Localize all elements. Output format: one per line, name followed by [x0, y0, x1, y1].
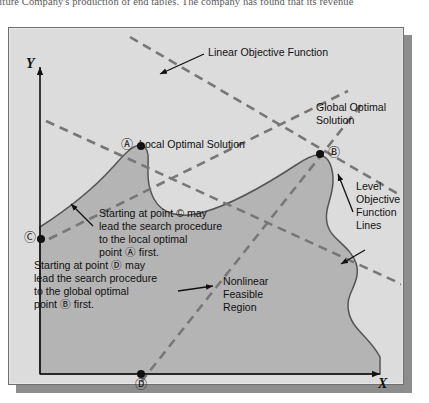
note-d-line2: lead the search procedure [34, 272, 157, 285]
y-axis-label: Y [26, 56, 35, 72]
label-level-objective-line4: Lines [356, 219, 381, 232]
label-linear-objective-function: Linear Objective Function [208, 46, 328, 59]
label-level-objective-line3: Function [356, 206, 397, 219]
note-d-line3: to the global optimal [34, 285, 129, 298]
point-label-d: Ⓓ [135, 379, 147, 392]
label-feasible-region-line2: Feasible [223, 288, 263, 301]
figure-graphic [8, 27, 412, 393]
x-axis-label: X [378, 376, 387, 392]
page-running-text-line: niture Company's production of end table… [0, 0, 429, 7]
label-level-objective-line1: Level [356, 180, 381, 193]
note-d-line1: Starting at point Ⓓ may [34, 259, 145, 272]
point-dot-d [137, 370, 145, 378]
label-level-objective-line2: Objective [356, 193, 400, 206]
leader-linear-objective [160, 54, 204, 74]
note-c-line4: point Ⓐ first. [99, 246, 159, 259]
leader-level-lines-upper [338, 174, 353, 212]
label-local-optimal-solution: Local Optimal Solution [139, 138, 245, 151]
note-c-line1: Starting at point © may [99, 207, 207, 220]
label-global-optimal-solution-line1: Global Optimal [316, 101, 386, 114]
point-dot-b [316, 150, 324, 158]
note-c-line3: to the local optimal [99, 233, 187, 246]
point-dot-c [37, 235, 45, 243]
page-running-text: niture Company's production of end table… [0, 0, 429, 11]
label-feasible-region-line3: Region [223, 301, 257, 314]
point-label-c: Ⓒ [24, 232, 36, 245]
point-label-b: Ⓑ [328, 147, 340, 160]
note-c-line2: lead the search procedure [99, 220, 222, 233]
figure-nonlinear-feasible-region: Ⓐ Ⓑ Ⓒ Ⓓ Y X Linear Objective Function Gl… [8, 27, 412, 393]
label-global-optimal-solution-line2: Solution [316, 114, 354, 127]
note-d-line4: point Ⓑ first. [34, 298, 94, 311]
point-label-a: Ⓐ [121, 139, 133, 152]
label-feasible-region-line1: Nonlinear [223, 275, 268, 288]
